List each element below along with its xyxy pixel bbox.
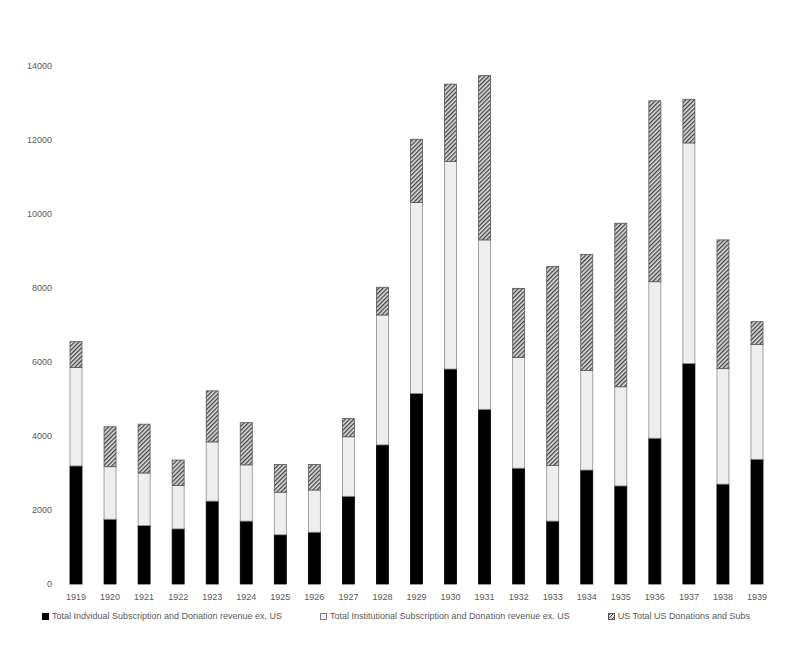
legend: Total Indvidual Subscription and Donatio… [0,611,792,621]
y-axis: 02000400060008000100001200014000 [27,61,52,589]
segment-individual [138,526,150,584]
segment-individual [513,468,525,584]
segment-us [70,342,82,368]
x-tick-label: 1937 [679,592,699,602]
segment-institutional [479,240,491,409]
bar-1931 [479,76,491,584]
segment-us [717,240,729,369]
segment-institutional [206,442,218,501]
segment-individual [683,363,695,584]
segment-institutional [513,358,525,469]
segment-individual [581,470,593,584]
bar-1929 [411,139,423,584]
bar-1934 [581,254,593,584]
x-tick-label: 1934 [577,592,597,602]
segment-us [547,267,559,466]
segment-individual [615,486,627,584]
legend-item-institutional: Total Institutional Subscription and Don… [320,611,570,621]
segment-us [104,427,116,467]
segment-us [411,139,423,202]
segment-individual [479,409,491,584]
legend-item-us: US Total US Donations and Subs [608,611,750,621]
bar-1933 [547,267,559,584]
segment-institutional [104,467,116,520]
bar-1921 [138,424,150,584]
x-tick-label: 1929 [406,592,426,602]
segment-us [172,460,184,486]
segment-individual [342,496,354,584]
segment-us [240,423,252,465]
x-tick-label: 1925 [270,592,290,602]
bar-1924 [240,423,252,584]
segment-institutional [649,282,661,439]
x-tick-label: 1921 [134,592,154,602]
segment-individual [274,535,286,584]
segment-individual [172,529,184,584]
y-tick-label: 8000 [32,283,52,293]
x-tick-label: 1924 [236,592,256,602]
segment-individual [751,459,763,584]
x-tick-label: 1931 [475,592,495,602]
x-tick-label: 1920 [100,592,120,602]
x-tick-label: 1935 [611,592,631,602]
bar-1923 [206,391,218,584]
segment-institutional [342,437,354,497]
segment-institutional [547,466,559,521]
x-tick-label: 1932 [509,592,529,602]
x-tick-label: 1933 [543,592,563,602]
segment-us [308,464,320,490]
bar-1919 [70,342,82,584]
x-tick-label: 1922 [168,592,188,602]
segment-institutional [717,369,729,484]
segment-us [274,464,286,492]
segment-institutional [240,465,252,521]
bar-1925 [274,464,286,584]
segment-individual [445,369,457,584]
segment-us [479,76,491,240]
bar-1922 [172,460,184,584]
light-grey-swatch-icon [320,613,327,620]
bar-1926 [308,464,320,584]
legend-item-individual: Total Indvidual Subscription and Donatio… [42,611,282,621]
x-tick-label: 1928 [372,592,392,602]
x-tick-label: 1939 [747,592,767,602]
segment-individual [717,484,729,584]
x-tick-label: 1936 [645,592,665,602]
bar-1928 [376,287,388,584]
segment-institutional [138,473,150,526]
segment-us [206,391,218,442]
segment-us [445,84,457,161]
y-tick-label: 2000 [32,505,52,515]
segment-individual [376,445,388,584]
segment-institutional [581,371,593,471]
bar-1937 [683,99,695,584]
segment-institutional [683,143,695,364]
bar-1935 [615,223,627,584]
y-tick-label: 4000 [32,431,52,441]
segment-individual [206,501,218,584]
x-tick-label: 1919 [66,592,86,602]
segment-us [581,254,593,370]
x-tick-label: 1938 [713,592,733,602]
y-tick-label: 14000 [27,61,52,71]
segment-institutional [172,486,184,529]
segment-individual [308,532,320,584]
y-tick-label: 0 [47,579,52,589]
legend-label: US Total US Donations and Subs [618,611,750,621]
segment-us [376,287,388,315]
bar-1936 [649,101,661,584]
segment-institutional [751,345,763,460]
segment-institutional [615,387,627,486]
segment-individual [547,521,559,584]
segment-us [615,223,627,387]
bar-1932 [513,288,525,584]
legend-label: Total Indvidual Subscription and Donatio… [52,611,282,621]
y-tick-label: 10000 [27,209,52,219]
segment-us [342,419,354,437]
segment-institutional [411,203,423,394]
bar-1939 [751,322,763,584]
y-tick-label: 12000 [27,135,52,145]
legend-label: Total Institutional Subscription and Don… [330,611,570,621]
segment-individual [411,393,423,584]
bars [70,76,763,584]
